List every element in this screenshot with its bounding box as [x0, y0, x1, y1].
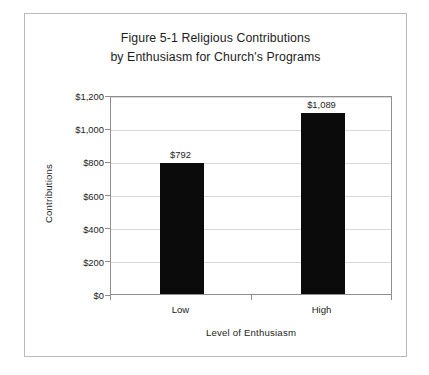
y-axis-tick-label: $400	[46, 223, 104, 234]
x-axis-tick-mark	[110, 295, 111, 300]
bar-value-label: $792	[136, 149, 226, 160]
x-axis-title: Level of Enthusiasm	[110, 327, 392, 338]
gridline	[111, 97, 391, 98]
gridline	[111, 262, 391, 263]
gridline	[111, 163, 391, 164]
x-axis-tick-mark	[391, 295, 392, 300]
bar	[301, 113, 345, 294]
gridline	[111, 196, 391, 197]
y-axis-tick-label: $0	[46, 290, 104, 301]
chart-title-line-2: by Enthusiasm for Church's Programs	[24, 48, 407, 67]
bar	[160, 163, 204, 294]
y-axis-tick-label: $1,200	[46, 91, 104, 102]
chart-title-line-1: Figure 5-1 Religious Contributions	[24, 29, 407, 48]
gridline	[111, 229, 391, 230]
y-axis-tick-mark	[105, 228, 110, 229]
y-axis-tick-mark	[105, 162, 110, 163]
y-axis-tick-mark	[105, 261, 110, 262]
x-axis-tick-mark	[251, 295, 252, 300]
gridline	[111, 130, 391, 131]
y-axis-tick-mark	[105, 129, 110, 130]
y-axis-tick-label: $200	[46, 256, 104, 267]
x-axis-tick-label: High	[277, 304, 367, 315]
y-axis-tick-label: $600	[46, 190, 104, 201]
y-axis-tick-label: $1,000	[46, 124, 104, 135]
x-axis-tick-label: Low	[136, 304, 226, 315]
y-axis-tick-mark	[105, 96, 110, 97]
bar-value-label: $1,089	[277, 99, 367, 110]
plot-area	[110, 96, 392, 295]
y-axis-tick-label: $800	[46, 157, 104, 168]
y-axis-tick-mark	[105, 195, 110, 196]
chart-title: Figure 5-1 Religious Contributions by En…	[24, 29, 407, 67]
